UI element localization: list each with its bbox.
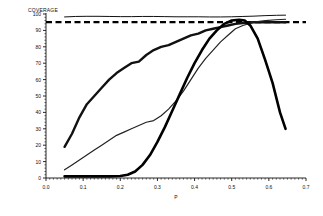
x-axis-tick-label: 0.5 bbox=[228, 184, 235, 190]
y-axis-label: COVERAGE bbox=[28, 7, 58, 13]
y-axis-tick-label: 90 bbox=[35, 27, 41, 33]
y-axis-tick-label: 20 bbox=[35, 142, 41, 148]
y-axis-tick-label: 30 bbox=[35, 126, 41, 132]
series-curve-thick-early-rise bbox=[65, 22, 286, 147]
x-axis-label: P bbox=[174, 194, 178, 200]
y-axis-tick-label: 50 bbox=[35, 93, 41, 99]
y-axis-tick-label: 60 bbox=[35, 77, 41, 83]
y-axis-tick-label: 80 bbox=[35, 44, 41, 50]
chart-canvas: 01020304050607080901000.00.10.20.30.40.5… bbox=[0, 0, 323, 216]
x-axis-tick-label: 0.1 bbox=[80, 184, 87, 190]
coverage-chart-figure: 01020304050607080901000.00.10.20.30.40.5… bbox=[0, 0, 323, 216]
x-axis-tick-label: 0.3 bbox=[154, 184, 161, 190]
x-axis-tick-label: 0.7 bbox=[303, 184, 310, 190]
y-axis-tick-label: 70 bbox=[35, 60, 41, 66]
x-axis-tick-label: 0.2 bbox=[117, 184, 124, 190]
y-axis-tick-label: 40 bbox=[35, 109, 41, 115]
x-axis-tick-label: 0.6 bbox=[265, 184, 272, 190]
x-axis-tick-label: 0.0 bbox=[43, 184, 50, 190]
series-curve-flat-top bbox=[65, 15, 286, 17]
x-axis-tick-label: 0.4 bbox=[191, 184, 198, 190]
y-axis-tick-label: 0 bbox=[38, 175, 41, 181]
y-axis-tick-label: 10 bbox=[35, 159, 41, 165]
